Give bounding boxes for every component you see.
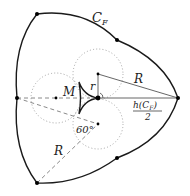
point-lower-right (115, 156, 119, 160)
point-circle-left (55, 97, 58, 100)
point-left (15, 96, 19, 100)
label-r: r (90, 80, 96, 93)
point-top-left (35, 12, 39, 16)
point-upper-right (115, 38, 119, 42)
point-circle-top (97, 73, 100, 76)
label-half-width-numerator: h(CF) (133, 100, 157, 111)
label-R-lower: R (53, 144, 63, 158)
point-circle-bottom (97, 123, 100, 126)
diagram-canvas: CF M r R R 60° h(CF) 2 (0, 0, 190, 196)
angle-marker (100, 93, 103, 98)
label-half-width: h(CF) 2 (133, 100, 162, 122)
label-cf: CF (92, 10, 108, 27)
dashed-left-to-bottom-center (17, 98, 98, 124)
label-half-width-denominator: 2 (144, 112, 151, 122)
point-bottom-left (35, 181, 39, 185)
point-right (176, 96, 180, 100)
label-R-upper: R (133, 72, 143, 86)
label-angle: 60° (76, 124, 94, 135)
label-m: M (62, 85, 76, 99)
point-center (96, 96, 101, 101)
